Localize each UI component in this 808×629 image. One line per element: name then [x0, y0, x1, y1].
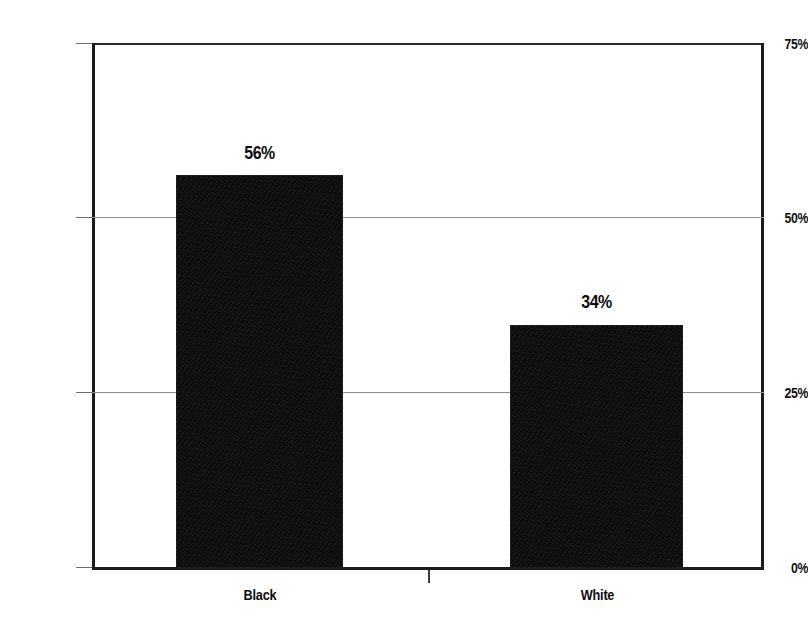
plot-border-right [761, 43, 764, 570]
y-axis-tick-label-25: 25% [747, 385, 808, 400]
bar-value-label-white: 34% [524, 292, 669, 311]
y-axis-line [92, 43, 95, 570]
x-axis-category-label-white: White [527, 587, 667, 602]
y-axis-tick-label-50: 50% [747, 210, 808, 225]
y-tick-mark-25 [76, 392, 92, 393]
bar-chart: 75% 50% 25% 0% 56% 34% Black White [0, 0, 808, 629]
x-axis-tick-separator [428, 570, 430, 583]
y-tick-mark-0 [76, 567, 92, 568]
y-axis-tick-label-75: 75% [747, 36, 808, 51]
y-tick-mark-50 [76, 217, 92, 218]
plot-border-top [92, 43, 764, 45]
bar-value-label-black: 56% [189, 143, 329, 162]
x-axis-category-label-black: Black [192, 587, 328, 602]
bar-black[interactable] [176, 175, 343, 568]
y-tick-mark-75 [76, 43, 92, 44]
bar-white[interactable] [510, 325, 683, 568]
y-axis-tick-label-0: 0% [747, 560, 808, 575]
